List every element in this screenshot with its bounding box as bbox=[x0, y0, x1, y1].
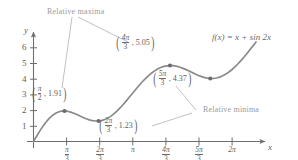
x-tick-2pi-over-3: 2π 3 bbox=[92, 146, 108, 160]
point-pi-over-2 bbox=[62, 109, 66, 113]
graph-canvas bbox=[0, 0, 298, 160]
x-tick-pi-over-3: π 3 bbox=[60, 146, 74, 160]
point-1-num: 4π bbox=[122, 34, 130, 42]
function-label: f(x) = x + sin 2x bbox=[212, 33, 271, 42]
point-2-value: , 4.37 bbox=[169, 75, 187, 83]
y-tick-5: 5 bbox=[22, 59, 27, 68]
x-tick-2-num: π bbox=[131, 146, 135, 154]
x-tick-2pi: 2π bbox=[224, 146, 240, 154]
x-tick-1-den: 3 bbox=[96, 154, 104, 160]
y-tick-1: 1 bbox=[22, 122, 27, 131]
relative-extrema-figure: y x 1 2 3 4 5 6 π 3 2π 3 π 4π 3 5π 3 bbox=[0, 0, 298, 160]
y-tick-4: 4 bbox=[22, 75, 27, 84]
point-5pi-over-3 bbox=[208, 76, 212, 80]
x-tick-4-num: 5π bbox=[195, 146, 203, 154]
minima-leader-down bbox=[152, 113, 192, 126]
x-tick-pi: π bbox=[126, 146, 140, 154]
x-tick-0-den: 3 bbox=[65, 154, 69, 160]
point-3-value: , 1.23 bbox=[115, 122, 133, 130]
x-tick-4pi-over-3: 4π 3 bbox=[158, 146, 174, 160]
point-3-den: 3 bbox=[105, 125, 113, 134]
x-tick-0-num: π bbox=[65, 146, 69, 154]
x-axis-label: x bbox=[268, 143, 272, 152]
y-axis-label: y bbox=[24, 26, 28, 35]
y-tick-6: 6 bbox=[22, 43, 27, 52]
point-label-pi-over-2: ( π 2 , 1.91 ) bbox=[31, 85, 68, 102]
point-0-value: , 1.91 bbox=[44, 90, 62, 98]
x-tick-3-num: 4π bbox=[162, 146, 170, 154]
point-label-5pi-over-3: ( 5π 3 , 4.37 ) bbox=[152, 70, 192, 87]
x-tick-1-num: 2π bbox=[96, 146, 104, 154]
point-0-num: π bbox=[38, 85, 42, 93]
point-label-2pi-over-3: ( 2π 3 , 1.23 ) bbox=[98, 117, 138, 134]
x-tick-5-num: 2π bbox=[228, 146, 236, 154]
point-1-value: , 5.05 bbox=[132, 39, 150, 47]
minima-leader-lines bbox=[152, 86, 196, 126]
minima-leader-up bbox=[176, 86, 196, 110]
x-tick-5pi-over-3: 5π 3 bbox=[191, 146, 207, 160]
y-tick-3: 3 bbox=[22, 90, 27, 99]
maxima-leader-left bbox=[62, 17, 72, 88]
relative-minima-callout: Relative minima bbox=[203, 106, 259, 114]
point-label-4pi-over-3: ( 4π 3 , 5.05 ) bbox=[115, 34, 155, 51]
point-0-den: 2 bbox=[38, 93, 42, 102]
point-3-num: 2π bbox=[105, 117, 113, 125]
point-2-den: 3 bbox=[159, 78, 167, 87]
x-tick-3-den: 3 bbox=[162, 154, 170, 160]
relative-maxima-callout: Relative maxima bbox=[47, 8, 104, 16]
point-4pi-over-3 bbox=[168, 63, 172, 67]
maxima-leader-lines bbox=[62, 17, 128, 88]
y-tick-2: 2 bbox=[22, 106, 27, 115]
point-2-num: 5π bbox=[159, 70, 167, 78]
point-1-den: 3 bbox=[122, 42, 130, 51]
x-tick-4-den: 3 bbox=[195, 154, 203, 160]
